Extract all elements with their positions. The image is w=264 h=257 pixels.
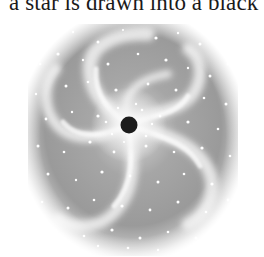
caption-text-line: a star is drawn into a black hole.: [9, 0, 259, 16]
spiral-galaxy-icon: [28, 24, 238, 256]
galaxy-illustration: [28, 24, 238, 256]
black-hole-icon: [121, 117, 138, 134]
